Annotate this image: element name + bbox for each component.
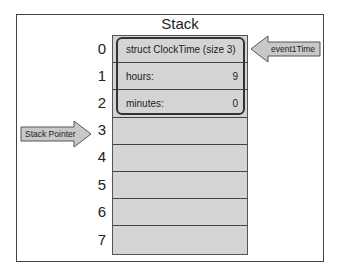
stack-title: Stack: [112, 15, 248, 32]
field-value: 0: [232, 98, 238, 109]
event1time-label: event1Time: [271, 44, 315, 54]
struct-header: struct ClockTime (size 3): [126, 44, 238, 55]
stack-slot-5: [113, 172, 247, 199]
stack-slot-7: [113, 226, 247, 253]
struct-field-hours: hours: 9: [126, 71, 238, 82]
struct-field-minutes: minutes: 0: [126, 98, 238, 109]
stack-pointer-label: Stack Pointer: [25, 129, 76, 139]
stack-slot-3: [113, 118, 247, 145]
field-value: 9: [232, 71, 238, 82]
slot-index: 0: [80, 40, 106, 57]
slot-index: 4: [80, 148, 106, 165]
slot-index: 7: [80, 231, 106, 248]
field-name: minutes:: [126, 98, 164, 109]
slot-index: 5: [80, 176, 106, 193]
stack-slot-4: [113, 145, 247, 172]
slot-index: 1: [80, 67, 106, 84]
stack-slot-6: [113, 199, 247, 226]
slot-index: 6: [80, 203, 106, 220]
slot-index: 2: [80, 94, 106, 111]
struct-header-label: struct ClockTime (size 3): [126, 44, 236, 55]
field-name: hours:: [126, 71, 154, 82]
